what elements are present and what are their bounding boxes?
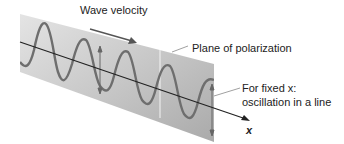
plane-leader-line: [172, 46, 188, 52]
fixed-x-leader-line: [214, 88, 240, 96]
wave-velocity-label: Wave velocity: [80, 4, 147, 17]
plane-label: Plane of polarization: [192, 42, 292, 55]
fixed-x-label-line1: For fixed x:: [242, 82, 296, 95]
x-axis-arrowhead: [241, 115, 250, 121]
fixed-x-label-line2: oscillation in a line: [242, 96, 331, 109]
x-axis-label: x: [246, 124, 252, 137]
polarization-diagram: [0, 0, 344, 144]
